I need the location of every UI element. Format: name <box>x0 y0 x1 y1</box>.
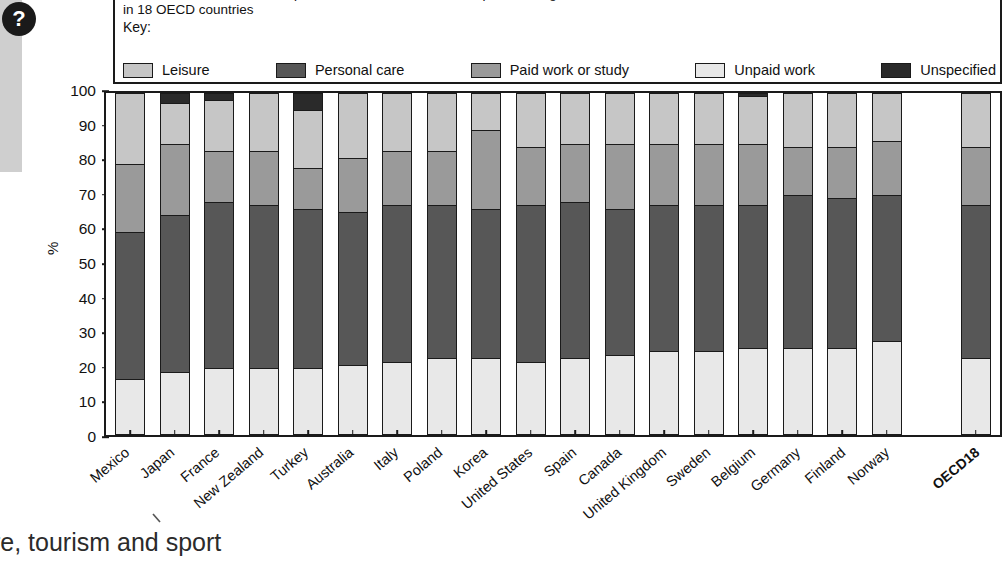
x-axis-label: Finland <box>801 444 848 487</box>
legend-item: Unpaid work <box>695 62 815 78</box>
x-axis-label: Norway <box>845 444 893 488</box>
stacked-bar <box>115 93 145 435</box>
legend-item: Paid work or study <box>471 62 629 78</box>
bar-segment <box>472 210 500 360</box>
bar-segment <box>205 203 233 370</box>
bar-segment <box>784 349 812 434</box>
x-axis-tick-mark <box>530 430 532 436</box>
x-axis-tick-mark <box>174 430 176 436</box>
bar-column <box>642 93 687 435</box>
stacked-bar <box>738 93 768 435</box>
chart-page: ? 24-hour breakdown of time spent in mai… <box>0 0 1004 562</box>
bar-segment <box>294 94 322 111</box>
bar-segment <box>962 148 990 206</box>
bar-segment <box>383 206 411 362</box>
bar-segment <box>739 206 767 349</box>
x-axis-tick-mark <box>129 430 131 436</box>
stacked-bar <box>204 93 234 435</box>
x-axis-tick-mark <box>574 430 576 436</box>
bar-column <box>242 93 287 435</box>
legend-swatch-icon <box>123 63 153 78</box>
bar-column <box>420 93 465 435</box>
bar-segment <box>116 165 144 233</box>
stacked-bar <box>649 93 679 435</box>
bar-segment <box>161 104 189 145</box>
stacked-bar <box>783 93 813 435</box>
legend-item-label: Personal care <box>315 62 404 78</box>
x-axis-tick-mark <box>975 430 977 436</box>
stacked-bar <box>694 93 724 435</box>
bar-segment <box>517 363 545 434</box>
bar-segment <box>828 199 856 349</box>
bar-column <box>108 93 153 435</box>
bar-segment <box>383 94 411 152</box>
x-axis-tick-mark <box>307 430 309 436</box>
bar-segment <box>695 352 723 434</box>
x-axis-tick-mark <box>619 430 621 436</box>
legend-item: Unspecified <box>881 62 996 78</box>
x-axis-label: Poland <box>401 444 446 485</box>
bar-column <box>820 93 865 435</box>
x-axis-tick-mark <box>752 430 754 436</box>
plot-area <box>104 91 1002 437</box>
bar-segment <box>294 369 322 434</box>
bar-segment <box>873 94 901 142</box>
bar-segment <box>294 169 322 210</box>
bar-segment <box>250 206 278 369</box>
bar-segment <box>739 97 767 145</box>
bar-segment <box>161 145 189 216</box>
stacked-bar <box>605 93 635 435</box>
bar-segment <box>784 148 812 196</box>
bar-column <box>331 93 376 435</box>
bar-segment <box>828 349 856 434</box>
y-axis-tick-label: 90 <box>79 117 96 135</box>
stacked-bar <box>516 93 546 435</box>
bar-segment <box>650 206 678 352</box>
stacked-bar <box>827 93 857 435</box>
bar-column <box>153 93 198 435</box>
bar-column <box>598 93 643 435</box>
x-axis-tick-mark <box>841 430 843 436</box>
x-axis-label: Japan <box>137 444 178 482</box>
bar-segment <box>339 366 367 434</box>
bar-segment <box>828 148 856 199</box>
stacked-bar <box>471 93 501 435</box>
bar-segment <box>561 359 589 434</box>
legend-item-label: Paid work or study <box>510 62 629 78</box>
bar-segment <box>606 94 634 145</box>
chart-title-line2: in 18 OECD countries <box>123 2 992 18</box>
bar-segment <box>695 94 723 145</box>
x-axis-label: Spain <box>541 444 580 480</box>
bar-column <box>197 93 242 435</box>
bar-segment <box>116 233 144 379</box>
legend-swatch-icon <box>471 63 501 78</box>
stacked-bar <box>338 93 368 435</box>
legend-swatch-icon <box>276 63 306 78</box>
bar-segment <box>650 352 678 434</box>
y-axis-tick-label: 70 <box>79 186 96 204</box>
y-axis-tick-label: 50 <box>79 255 96 273</box>
bar-segment <box>739 145 767 206</box>
bar-segment <box>428 94 456 152</box>
bar-segment <box>650 145 678 206</box>
bar-column <box>553 93 598 435</box>
bar-segment <box>784 196 812 349</box>
bar-segment <box>250 94 278 152</box>
legend-item-label: Unspecified <box>920 62 996 78</box>
y-axis-tick-label: 60 <box>79 220 96 238</box>
y-axis-tick-label: 20 <box>79 359 96 377</box>
bar-column <box>954 93 999 435</box>
bar-segment <box>161 94 189 104</box>
bar-segment <box>962 359 990 434</box>
question-mark-icon[interactable]: ? <box>2 2 36 36</box>
bar-segment <box>205 101 233 152</box>
x-axis-label: Korea <box>450 444 490 481</box>
bar-segment <box>205 369 233 434</box>
chart-title-box: 24-hour breakdown of time spent in main … <box>113 0 1002 84</box>
bar-segment <box>873 196 901 342</box>
x-axis-tick-mark <box>441 430 443 436</box>
stacked-bar <box>872 93 902 435</box>
bar-column <box>464 93 509 435</box>
bar-segment <box>250 152 278 206</box>
bar-segment <box>873 142 901 196</box>
